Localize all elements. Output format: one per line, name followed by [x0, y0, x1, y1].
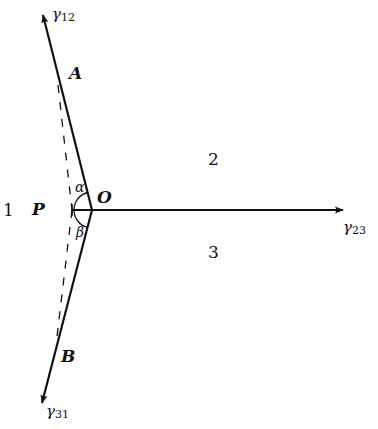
label-gamma23: γ23 — [343, 220, 366, 236]
label-region-2: 2 — [208, 151, 219, 168]
subscript-12: 12 — [61, 11, 75, 24]
vector-gamma12 — [43, 15, 92, 210]
three-phase-junction-diagram: γ12 γ23 γ31 A B O P α β 1 2 3 — [0, 0, 378, 429]
angle-arc-alpha — [74, 193, 88, 211]
label-point-p: P — [32, 201, 45, 218]
label-region-3: 3 — [208, 244, 219, 261]
gamma-symbol: γ — [46, 402, 55, 420]
diagram-lines — [0, 0, 378, 429]
label-gamma12: γ12 — [52, 7, 75, 23]
label-point-a: A — [69, 65, 82, 82]
label-angle-alpha: α — [75, 180, 84, 194]
label-gamma31: γ31 — [46, 404, 69, 420]
label-point-b: B — [61, 348, 75, 365]
label-region-1: 1 — [3, 202, 14, 219]
subscript-31: 31 — [55, 408, 69, 421]
label-angle-beta: β — [76, 225, 84, 239]
label-point-o: O — [97, 189, 112, 206]
gamma-symbol: γ — [343, 218, 352, 236]
gamma-symbol: γ — [52, 5, 61, 23]
vector-gamma31 — [42, 210, 92, 403]
dashed-line-pb — [56, 210, 72, 345]
subscript-23: 23 — [352, 224, 366, 237]
